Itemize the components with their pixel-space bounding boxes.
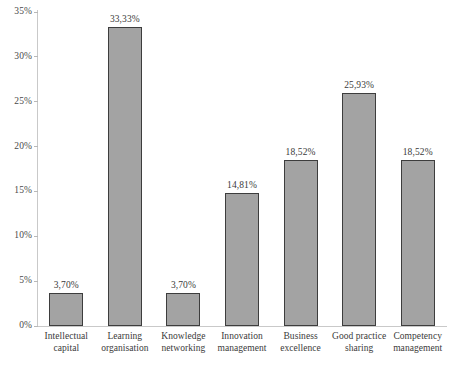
y-axis-tick-label: 35%	[0, 6, 37, 18]
bar[interactable]	[49, 293, 83, 326]
y-axis-tick-label: 20%	[0, 141, 37, 153]
bar-value-label: 3,70%	[171, 280, 196, 290]
bar-group[interactable]: 3,70%	[154, 12, 213, 326]
plot-area: 3,70%33,33%3,70%14,81%18,52%25,93%18,52%	[37, 12, 447, 326]
y-axis-tick-label: 25%	[0, 96, 37, 108]
bar-group[interactable]: 3,70%	[37, 12, 96, 326]
bar-group[interactable]: 14,81%	[213, 12, 272, 326]
bar-value-label: 18,52%	[403, 147, 433, 157]
bar-group[interactable]: 25,93%	[330, 12, 389, 326]
y-axis-tick-label: 5%	[0, 275, 37, 287]
bar[interactable]	[225, 193, 259, 326]
bar-chart: 0%5%10%15%20%25%30%35% 3,70%33,33%3,70%1…	[0, 0, 454, 369]
bar-value-label: 14,81%	[227, 180, 257, 190]
y-axis-tick-label: 0%	[0, 320, 37, 332]
y-axis-tick-label: 30%	[0, 51, 37, 63]
bar-group[interactable]: 33,33%	[96, 12, 155, 326]
bar-value-label: 33,33%	[110, 14, 140, 24]
x-axis-category-label: Innovation management	[213, 331, 272, 354]
x-axis-labels: Intellectual capitalLearning organisatio…	[37, 331, 447, 367]
bar-value-label: 18,52%	[286, 147, 316, 157]
x-axis-category-label: Competency management	[388, 331, 447, 354]
y-axis-tick-label: 15%	[0, 185, 37, 197]
bar-group[interactable]: 18,52%	[388, 12, 447, 326]
y-axis-tick-label: 10%	[0, 230, 37, 242]
x-axis-category-label: Knowledge networking	[154, 331, 213, 354]
bar[interactable]	[284, 160, 318, 326]
bar-value-label: 25,93%	[344, 80, 374, 90]
bar[interactable]	[342, 93, 376, 326]
x-axis-category-label: Learning organisation	[96, 331, 155, 354]
bar-group[interactable]: 18,52%	[271, 12, 330, 326]
bar-value-label: 3,70%	[54, 280, 79, 290]
bar[interactable]	[401, 160, 435, 326]
bar[interactable]	[166, 293, 200, 326]
bar[interactable]	[108, 27, 142, 326]
x-axis-category-label: Business excellence	[271, 331, 330, 354]
x-axis-category-label: Good practice sharing	[330, 331, 389, 354]
x-axis-line	[37, 326, 447, 327]
x-axis-category-label: Intellectual capital	[37, 331, 96, 354]
